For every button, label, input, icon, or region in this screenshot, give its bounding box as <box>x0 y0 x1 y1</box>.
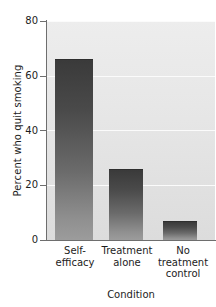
x-tick-label-line: alone <box>96 257 158 269</box>
y-tick-label-0: 0 <box>8 235 38 245</box>
x-axis-title: Condition <box>47 289 215 300</box>
bar-treatment-alone[interactable] <box>109 169 143 240</box>
x-tick-label-line: No <box>152 245 214 257</box>
x-axis-line <box>40 240 216 241</box>
bar-no-treatment-control[interactable] <box>163 221 197 240</box>
gridline-80 <box>47 21 215 22</box>
y-tick-label-20: 20 <box>8 180 38 190</box>
bar-chart-figure: Percent who quit smoking 80 60 40 20 0 S… <box>0 0 216 307</box>
y-tick-label-80: 80 <box>8 16 38 26</box>
x-tick-label-line: control <box>152 268 214 280</box>
x-tick-label-no-treatment-control: No treatment control <box>152 245 214 280</box>
bar-self-efficacy[interactable] <box>55 59 93 240</box>
x-tick-label-line: Treatment <box>96 245 158 257</box>
x-tick-label-treatment-alone: Treatment alone <box>96 245 158 268</box>
y-axis-line <box>46 20 47 241</box>
x-tick-label-line: treatment <box>152 257 214 269</box>
y-tick-label-40: 40 <box>8 126 38 136</box>
plot-area <box>47 21 215 240</box>
y-axis-tick-labels: 80 60 40 20 0 <box>0 0 38 307</box>
y-tick-label-60: 60 <box>8 71 38 81</box>
x-axis-tick-labels: Self- efficacy Treatment alone No treatm… <box>47 245 215 290</box>
